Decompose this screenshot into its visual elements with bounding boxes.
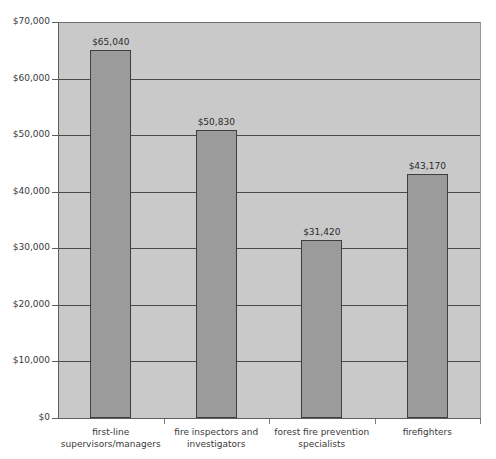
x-axis-category-label: forest fire prevention specialists [264, 426, 380, 450]
x-axis-labels: first-line supervisors/managersfire insp… [0, 0, 496, 459]
x-axis-category-label: first-line supervisors/managers [53, 426, 169, 450]
x-axis-category-label: fire inspectors and investigators [158, 426, 274, 450]
bar-chart: $65,040$50,830$31,420$43,170 $0$10,000$2… [0, 0, 496, 459]
x-axis-category-label: firefighters [369, 426, 485, 438]
